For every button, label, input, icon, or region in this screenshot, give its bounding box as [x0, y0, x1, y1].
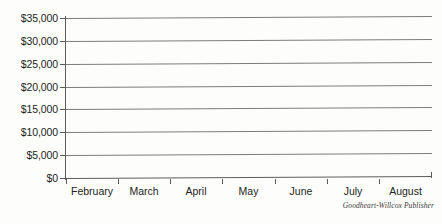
x-axis-label-august: August [379, 186, 432, 197]
plot-area [66, 18, 432, 178]
x-tick-6 [379, 179, 380, 184]
x-axis-label-june: June [275, 186, 327, 197]
gridline-10000 [66, 130, 432, 133]
y-tick-15000 [60, 109, 65, 110]
gridline-20000 [66, 85, 432, 88]
y-axis-label-5000: $5,000 [0, 150, 58, 161]
x-tick-5 [327, 179, 328, 184]
y-axis-label-0: $0 [0, 173, 58, 184]
y-tick-25000 [60, 64, 65, 65]
x-axis-label-april: April [170, 186, 222, 197]
x-tick-7 [431, 172, 432, 178]
y-axis-line [65, 16, 66, 180]
y-tick-35000 [60, 18, 65, 19]
y-axis-label-25000: $25,000 [0, 59, 58, 70]
gridline-25000 [66, 62, 432, 65]
x-axis-line [66, 176, 432, 179]
y-axis-label-35000: $35,000 [0, 13, 58, 24]
y-axis-label-10000: $10,000 [0, 127, 58, 138]
x-axis-label-may: May [222, 186, 275, 197]
publisher-credit: Goodheart-Willcox Publisher [343, 201, 434, 210]
x-tick-2 [170, 179, 171, 184]
y-axis-labels: $35,000 $30,000 $25,000 $20,000 $15,000 … [0, 0, 58, 224]
y-axis-label-20000: $20,000 [0, 82, 58, 93]
x-axis-label-february: February [66, 186, 118, 197]
y-tick-10000 [60, 132, 65, 133]
x-tick-0 [66, 179, 67, 184]
chart-figure: $35,000 $30,000 $25,000 $20,000 $15,000 … [0, 0, 442, 224]
y-tick-30000 [60, 41, 65, 42]
y-axis-label-30000: $30,000 [0, 36, 58, 47]
y-axis-label-15000: $15,000 [0, 104, 58, 115]
y-tick-5000 [60, 155, 65, 156]
y-tick-20000 [60, 87, 65, 88]
gridline-30000 [66, 39, 432, 42]
x-axis-label-march: March [118, 186, 170, 197]
y-tick-0 [60, 178, 65, 179]
x-tick-4 [275, 179, 276, 184]
x-tick-1 [118, 179, 119, 184]
gridline-35000 [66, 16, 432, 19]
x-axis-label-july: July [327, 186, 379, 197]
x-tick-3 [222, 179, 223, 184]
gridline-5000 [66, 153, 432, 156]
gridline-15000 [66, 108, 432, 111]
